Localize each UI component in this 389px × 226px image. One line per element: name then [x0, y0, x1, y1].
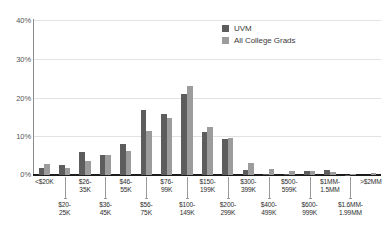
- leader-tick: [349, 198, 352, 199]
- bar: [146, 131, 152, 175]
- x-axis-tick-label: $150-199K: [186, 178, 230, 194]
- bar-group: [304, 20, 315, 175]
- bar-group: [79, 20, 90, 175]
- bar-group: [202, 20, 213, 175]
- bar: [310, 171, 316, 175]
- x-axis-tick-label: $300-399K: [226, 178, 270, 194]
- x-axis-tick-label: $1.6MM-1.99MM: [328, 201, 372, 217]
- bar: [330, 172, 336, 175]
- x-axis-tick-label: $26-35K: [63, 178, 107, 194]
- y-tick-label: 30%: [3, 55, 31, 64]
- x-axis-tick-label: <$20K: [22, 178, 66, 186]
- chart-legend: UVM All College Grads: [222, 24, 295, 45]
- y-tick-label: 40%: [3, 16, 31, 25]
- legend-item-uvm: UVM: [222, 24, 295, 33]
- bar-group: [365, 20, 376, 175]
- legend-label: All College Grads: [234, 36, 295, 45]
- x-axis-tick-label: $100-149K: [165, 201, 209, 217]
- leader-tick: [227, 198, 230, 199]
- bar-group: [141, 20, 152, 175]
- bar-group: [161, 20, 172, 175]
- x-axis-tick-label: $1MM-1.5MM: [308, 178, 352, 194]
- bar: [228, 138, 234, 175]
- bar: [371, 173, 377, 175]
- bar-group: [345, 20, 356, 175]
- bar-group: [59, 20, 70, 175]
- leader-tick: [64, 198, 67, 199]
- y-tick-label: 10%: [3, 132, 31, 141]
- x-axis-tick-label: $76-99K: [145, 178, 189, 194]
- legend-label: UVM: [234, 24, 252, 33]
- bar-group: [120, 20, 131, 175]
- x-axis-tick-label: $200-299K: [206, 201, 250, 217]
- y-tick-label: 20%: [3, 94, 31, 103]
- x-axis-tick-label: $400-499K: [247, 201, 291, 217]
- legend-swatch-icon: [222, 37, 229, 44]
- leader-tick: [268, 198, 271, 199]
- bar: [187, 86, 193, 175]
- bar-group: [324, 20, 335, 175]
- bar: [105, 155, 111, 175]
- bar: [207, 127, 213, 175]
- leader-tick: [309, 198, 312, 199]
- y-axis-labels: 40% 30% 20% 10% 0%: [0, 0, 31, 226]
- bar: [65, 168, 71, 175]
- bar: [126, 151, 132, 175]
- x-axis-tick-label: $46-55K: [104, 178, 148, 194]
- x-axis-tick-label: $36-45K: [83, 201, 127, 217]
- x-axis-tick-label: $500-599K: [267, 178, 311, 194]
- x-axis-labels: <$20K$20-25K$26-35K$36-45K$46-55K$56-75K…: [34, 176, 381, 226]
- x-axis-tick-label: $600-999K: [288, 201, 332, 217]
- bar-group: [100, 20, 111, 175]
- x-axis-tick-label: >$2MM: [349, 178, 389, 186]
- bar: [248, 163, 254, 175]
- bar-chart: 40% 30% 20% 10% 0% UVM All College Grads…: [0, 0, 389, 226]
- bar: [167, 118, 173, 175]
- leader-tick: [186, 198, 189, 199]
- bar-group: [39, 20, 50, 175]
- bar: [289, 171, 295, 175]
- leader-tick: [104, 198, 107, 199]
- bar: [269, 169, 275, 175]
- legend-swatch-icon: [222, 25, 229, 32]
- bar: [44, 164, 50, 175]
- leader-tick: [145, 198, 148, 199]
- x-axis-tick-label: $56-75K: [124, 201, 168, 217]
- legend-item-all-college-grads: All College Grads: [222, 36, 295, 45]
- bar-group: [181, 20, 192, 175]
- bar-series-container: [34, 20, 381, 175]
- x-axis-tick-label: $20-25K: [43, 201, 87, 217]
- bar: [350, 174, 356, 175]
- bar: [85, 161, 91, 175]
